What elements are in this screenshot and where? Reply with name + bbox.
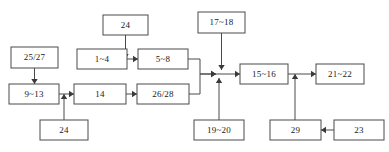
node-label: 24 — [121, 20, 131, 30]
node-label: 14 — [95, 89, 105, 99]
arrowhead-icon — [133, 56, 138, 62]
edge-n14-to-n26_28 — [126, 91, 137, 97]
node-n14[interactable]: 14 — [74, 84, 126, 104]
node-label: 17~18 — [210, 17, 234, 27]
node-label: 9~13 — [24, 89, 43, 99]
node-n5_8[interactable]: 5~8 — [138, 49, 188, 69]
edge-n26_28-to-n15_16 — [189, 71, 216, 94]
node-n24b[interactable]: 24 — [103, 15, 148, 35]
node-n21_22[interactable]: 21~22 — [316, 64, 364, 84]
node-label: 5~8 — [156, 54, 171, 64]
arrowhead-icon — [61, 94, 67, 99]
edge-junction-to-n15_16 — [216, 71, 240, 77]
arrowhead-icon — [211, 71, 216, 77]
edge-n17_18-to-n15_16 — [218, 33, 224, 70]
edge-n29-to-n21_22 — [292, 74, 298, 120]
arrowhead-icon — [292, 74, 298, 79]
node-n19_20[interactable]: 19~20 — [194, 120, 244, 140]
arrowhead-icon — [218, 65, 224, 70]
node-n23[interactable]: 23 — [334, 120, 384, 140]
node-n25_27[interactable]: 25/27 — [11, 47, 58, 68]
node-n24a[interactable]: 24 — [40, 120, 88, 140]
node-label: 1~4 — [95, 54, 110, 64]
node-label: 24 — [59, 125, 69, 135]
node-label: 26/28 — [152, 89, 174, 99]
arrowhead-icon — [235, 71, 240, 77]
node-n29[interactable]: 29 — [270, 120, 321, 140]
edge-n24a-to-n14 — [61, 94, 67, 120]
node-n17_18[interactable]: 17~18 — [198, 12, 245, 33]
edge-n9_13-to-n14 — [59, 91, 74, 97]
node-label: 23 — [354, 125, 364, 135]
edge-layer — [31, 33, 334, 133]
node-n26_28[interactable]: 26/28 — [137, 84, 189, 104]
node-layer: 25/279~13241~414245~826/2817~1819~2015~1… — [9, 12, 384, 140]
edge-n19_20-to-n15_16 — [216, 78, 222, 120]
edge-n15_16-to-n21_22 — [288, 71, 316, 77]
edge-n23-to-n29 — [321, 127, 334, 133]
node-label: 21~22 — [328, 69, 352, 79]
node-label: 25/27 — [24, 52, 46, 62]
arrowhead-icon — [321, 127, 326, 133]
node-label: 29 — [291, 125, 301, 135]
node-n15_16[interactable]: 15~16 — [240, 64, 288, 84]
arrowhead-icon — [216, 78, 222, 83]
node-n9_13[interactable]: 9~13 — [9, 84, 59, 104]
node-label: 15~16 — [252, 69, 276, 79]
node-label: 19~20 — [207, 125, 231, 135]
node-n1_4[interactable]: 1~4 — [77, 49, 127, 69]
arrowhead-icon — [69, 91, 74, 97]
arrowhead-icon — [132, 91, 137, 97]
edge-n1_4-to-n5_8 — [127, 56, 138, 62]
arrowhead-icon — [31, 79, 37, 84]
flowchart-diagram: 25/279~13241~414245~826/2817~1819~2015~1… — [0, 0, 389, 152]
arrowhead-icon — [311, 71, 316, 77]
flowchart-canvas: 25/279~13241~414245~826/2817~1819~2015~1… — [0, 0, 389, 152]
edge-n25_27-to-n9_13 — [31, 68, 37, 84]
